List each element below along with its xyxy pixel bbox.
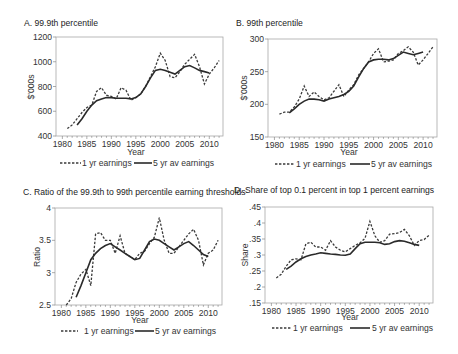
y-tick-label: .4 bbox=[254, 218, 261, 228]
x-tick-label: 1980 bbox=[52, 308, 71, 318]
y-tick-label: 200 bbox=[250, 99, 265, 109]
y-tick-label: 150 bbox=[250, 132, 265, 142]
x-tick-label: 2005 bbox=[175, 139, 194, 149]
panel-d-y-axis: .15.2.25.3.35.4.45 bbox=[249, 202, 265, 308]
x-tick-label: 1985 bbox=[76, 308, 95, 318]
y-tick-label: 1200 bbox=[33, 32, 52, 42]
y-tick-label: 3.5 bbox=[39, 235, 51, 245]
x-tick-label: 2005 bbox=[389, 140, 408, 150]
x-tick-label: 2010 bbox=[199, 308, 218, 318]
y-tick-label: .3 bbox=[254, 250, 261, 260]
panel-b: B. 99th percentile 150200250300 19801985… bbox=[236, 18, 437, 169]
x-tick-label: 1990 bbox=[314, 140, 333, 150]
x-tick-label: 1990 bbox=[102, 139, 121, 149]
legend-dashed-label: 1 yr earnings bbox=[84, 326, 134, 336]
panel-d-title: D. Share of top 0.1 percent in top 1 per… bbox=[234, 185, 434, 195]
panel-b-x-axis-title: Year bbox=[340, 147, 358, 157]
y-tick-label: .45 bbox=[249, 202, 261, 212]
x-tick-label: 1990 bbox=[101, 308, 120, 318]
y-tick-label: 300 bbox=[250, 34, 265, 44]
x-tick-label: 2000 bbox=[360, 306, 379, 316]
x-tick-label: 2000 bbox=[150, 308, 169, 318]
legend-dashed-label: 1 yr earnings bbox=[296, 159, 346, 169]
y-tick-label: 800 bbox=[38, 82, 53, 92]
y-tick-label: 4 bbox=[46, 203, 51, 213]
panel-a-y-axis: 40060080010001200 bbox=[33, 32, 56, 141]
x-tick-label: 2010 bbox=[414, 140, 433, 150]
legend-solid-label: 5 yr av earnings bbox=[371, 159, 432, 169]
x-tick-label: 2010 bbox=[200, 139, 219, 149]
panel-c-x-axis-title: Year bbox=[131, 315, 149, 325]
panel-a-y-axis-title: $'000s bbox=[26, 74, 36, 99]
x-tick-label: 1980 bbox=[262, 306, 281, 316]
panel-a-legend: 1 yr earnings 5 yr av earnings bbox=[60, 158, 214, 168]
panel-d-legend: 1 yr earnings 5 yr av earnings bbox=[272, 323, 433, 333]
panel-c: C. Ratio of the 99.9th to 99th percentil… bbox=[23, 187, 246, 336]
x-tick-label: 2000 bbox=[151, 139, 170, 149]
y-tick-label: .15 bbox=[249, 298, 261, 308]
panel-a: A. 99.9th percentile 40060080010001200 1… bbox=[24, 18, 223, 168]
x-tick-label: 2010 bbox=[410, 306, 429, 316]
legend-dashed-label: 1 yr earnings bbox=[82, 158, 132, 168]
panel-d-x-axis-title: Year bbox=[341, 312, 359, 322]
x-tick-label: 2005 bbox=[385, 306, 404, 316]
panel-c-y-axis-title: Ratio bbox=[32, 247, 42, 267]
x-tick-label: 1985 bbox=[286, 306, 305, 316]
panel-d-y-axis-title: Share bbox=[240, 243, 250, 266]
x-tick-label: 1985 bbox=[77, 139, 96, 149]
legend-solid-label: 5 yr av earnings bbox=[153, 158, 214, 168]
figure: A. 99.9th percentile 40060080010001200 1… bbox=[0, 0, 458, 354]
panel-b-y-axis-title: $'000s bbox=[239, 75, 249, 100]
panel-a-title: A. 99.9th percentile bbox=[24, 18, 98, 28]
panel-a-x-axis-title: Year bbox=[127, 147, 145, 157]
y-tick-label: 600 bbox=[38, 106, 53, 116]
x-tick-label: 1990 bbox=[311, 306, 330, 316]
legend-dashed-label: 1 yr earnings bbox=[293, 323, 343, 333]
panel-c-title: C. Ratio of the 99.9th to 99th percentil… bbox=[23, 187, 246, 197]
x-tick-label: 1980 bbox=[53, 139, 72, 149]
y-tick-label: 3 bbox=[46, 268, 51, 278]
y-tick-label: .2 bbox=[254, 282, 261, 292]
legend-solid-label: 5 yr av earnings bbox=[372, 323, 433, 333]
y-tick-label: .35 bbox=[249, 234, 261, 244]
x-tick-label: 1985 bbox=[290, 140, 309, 150]
y-tick-label: 2.5 bbox=[39, 300, 51, 310]
y-tick-label: 400 bbox=[38, 131, 53, 141]
y-tick-label: .25 bbox=[249, 266, 261, 276]
panel-d: D. Share of top 0.1 percent in top 1 per… bbox=[234, 185, 434, 333]
panel-b-legend: 1 yr earnings 5 yr av earnings bbox=[275, 159, 432, 169]
panel-b-y-axis: 150200250300 bbox=[250, 34, 268, 142]
y-tick-label: 1000 bbox=[33, 57, 52, 67]
x-tick-label: 2005 bbox=[174, 308, 193, 318]
y-tick-label: 250 bbox=[250, 67, 265, 77]
panel-c-plot-area bbox=[55, 208, 222, 305]
panel-c-legend: 1 yr earnings 5 yr av earnings bbox=[61, 326, 216, 336]
x-tick-label: 2000 bbox=[364, 140, 383, 150]
panel-b-title: B. 99th percentile bbox=[236, 18, 303, 28]
legend-solid-label: 5 yr av earnings bbox=[155, 326, 216, 336]
x-tick-label: 1980 bbox=[265, 140, 284, 150]
